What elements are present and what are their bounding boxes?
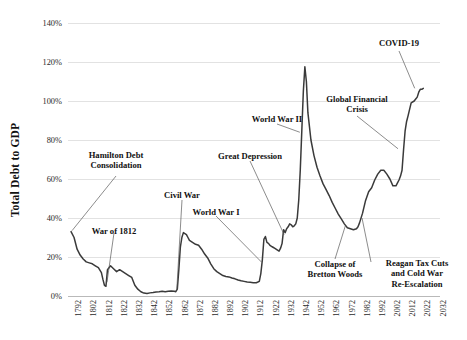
annotation-reagan-tax-cuts: Reagan Tax Cutsand Cold WarRe-Escalation xyxy=(371,258,463,289)
leader-line-global-financial-crisis xyxy=(357,116,398,149)
annotation-line: Reagan Tax Cuts xyxy=(371,258,463,268)
annotation-line: Global Financial xyxy=(312,94,402,104)
leader-line-collapse-of-bretton-woods xyxy=(335,226,345,259)
leader-line-great-depression xyxy=(250,161,284,235)
annotation-line: Collapse of xyxy=(298,259,372,269)
annotation-great-depression: Great Depression xyxy=(205,151,295,161)
annotation-world-war-ii: World War II xyxy=(241,114,313,124)
debt-to-gdp-chart: Total Debt to GDP 0%20%40%60%80%100%120%… xyxy=(0,0,467,340)
annotation-global-financial-crisis: Global FinancialCrisis xyxy=(312,94,402,115)
annotation-covid-19: COVID-19 xyxy=(370,38,428,48)
leader-line-hamilton-debt-consolidation xyxy=(72,176,116,231)
annotation-civil-war: Civil War xyxy=(151,190,213,200)
leader-line-reagan-tax-cuts xyxy=(362,218,371,262)
annotation-line: Crisis xyxy=(312,104,402,114)
annotation-line: World War II xyxy=(241,114,313,124)
annotation-line: World War I xyxy=(182,207,250,217)
annotation-line: Great Depression xyxy=(205,151,295,161)
leader-line-covid-19 xyxy=(399,51,415,88)
annotation-world-war-i: World War I xyxy=(182,207,250,217)
annotation-line: Civil War xyxy=(151,190,213,200)
annotation-line: and Cold War xyxy=(371,268,463,278)
annotation-war-of-1812: War of 1812 xyxy=(72,226,156,236)
annotation-line: Consolidation xyxy=(70,160,162,170)
annotation-line: Re-Escalation xyxy=(371,279,463,289)
annotation-line: War of 1812 xyxy=(72,226,156,236)
annotation-line: Bretton Woods xyxy=(298,269,372,279)
leader-line-world-war-ii xyxy=(277,124,300,132)
annotation-line: COVID-19 xyxy=(370,38,428,48)
annotation-collapse-of-bretton-woods: Collapse ofBretton Woods xyxy=(298,259,372,280)
annotation-line: Hamilton Debt xyxy=(70,150,162,160)
leader-line-war-of-1812 xyxy=(107,233,114,282)
annotation-hamilton-debt-consolidation: Hamilton DebtConsolidation xyxy=(70,150,162,171)
leader-line-world-war-i xyxy=(216,216,261,262)
